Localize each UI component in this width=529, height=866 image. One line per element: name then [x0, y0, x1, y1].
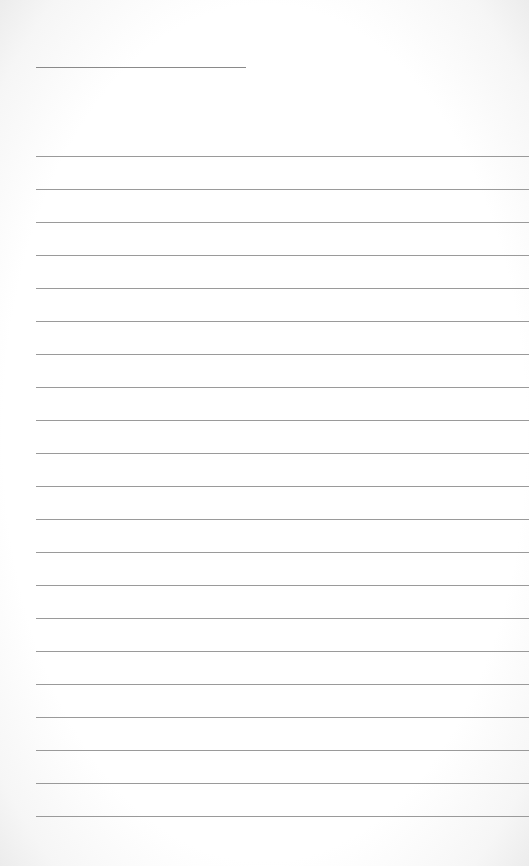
title-line	[36, 67, 246, 68]
ruled-line	[36, 255, 529, 256]
ruled-line	[36, 387, 529, 388]
ruled-line	[36, 684, 529, 685]
ruled-line	[36, 288, 529, 289]
ruled-line	[36, 750, 529, 751]
ruled-line	[36, 618, 529, 619]
ruled-line	[36, 222, 529, 223]
ruled-line	[36, 519, 529, 520]
ruled-line	[36, 420, 529, 421]
ruled-line	[36, 321, 529, 322]
ruled-line	[36, 354, 529, 355]
ruled-line	[36, 651, 529, 652]
ruled-line	[36, 816, 529, 817]
ruled-line	[36, 585, 529, 586]
ruled-line	[36, 486, 529, 487]
ruled-line	[36, 453, 529, 454]
ruled-line	[36, 189, 529, 190]
ruled-line	[36, 717, 529, 718]
ruled-line	[36, 783, 529, 784]
lined-paper-page	[0, 0, 529, 866]
ruled-line	[36, 552, 529, 553]
ruled-line	[36, 156, 529, 157]
